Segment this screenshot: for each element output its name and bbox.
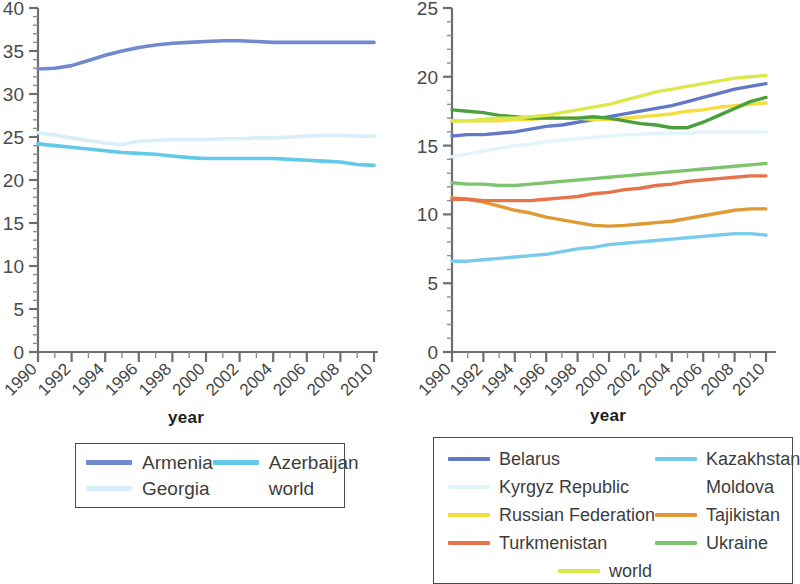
svg-text:15: 15 [417, 136, 438, 157]
svg-text:2002: 2002 [202, 359, 242, 399]
svg-text:1996: 1996 [509, 359, 549, 399]
legend-label-georgia: Georgia [142, 479, 210, 498]
svg-text:1992: 1992 [446, 359, 486, 399]
svg-text:0: 0 [13, 342, 24, 363]
legend-swatch-turkmenistan [448, 541, 490, 545]
svg-text:15: 15 [3, 213, 24, 234]
legend-label-kazakhstan: Kazakhstan [706, 450, 800, 468]
svg-text:1990: 1990 [1, 359, 41, 399]
svg-text:35: 35 [3, 41, 24, 62]
svg-text:2004: 2004 [634, 359, 674, 399]
legend-swatch-armenia [86, 460, 132, 465]
legend-label-moldova: Moldova [706, 478, 774, 496]
svg-text:2000: 2000 [169, 359, 209, 399]
svg-text:2006: 2006 [269, 359, 309, 399]
legend-label-azerbaijan: Azerbaijan [269, 453, 359, 472]
svg-text:1990: 1990 [415, 359, 455, 399]
legend-label-kyrgyz-republic: Kyrgyz Republic [499, 478, 629, 496]
svg-text:2008: 2008 [697, 359, 737, 399]
legend-item-russian-federation[interactable]: Russian Federation [448, 501, 655, 529]
legend-swatch-world [558, 569, 600, 573]
legend-item-ukraine[interactable]: Ukraine [655, 529, 800, 557]
svg-text:2010: 2010 [729, 359, 769, 399]
left-x-axis-title: year [168, 408, 204, 428]
svg-text:20: 20 [417, 67, 438, 88]
svg-text:5: 5 [427, 273, 438, 294]
legend-item-belarus[interactable]: Belarus [448, 445, 655, 473]
legend-swatch-belarus [448, 457, 490, 461]
svg-text:1992: 1992 [34, 359, 74, 399]
left-chart-panel: 0510152025303540199019921994199619982000… [0, 0, 400, 584]
legend-item-kyrgyz-republic[interactable]: Kyrgyz Republic [448, 473, 655, 501]
svg-text:2000: 2000 [572, 359, 612, 399]
legend-label-turkmenistan: Turkmenistan [499, 534, 607, 552]
right-x-axis-title: year [590, 406, 626, 426]
legend-item-tajikistan[interactable]: Tajikistan [655, 501, 800, 529]
legend-item-georgia[interactable]: Georgia [86, 476, 213, 503]
legend-label-armenia: Armenia [142, 453, 213, 472]
legend-label-world: world [269, 479, 314, 498]
left-chart-plot: 0510152025303540199019921994199619982000… [0, 0, 400, 400]
svg-text:1994: 1994 [68, 359, 108, 399]
legend-swatch-ukraine [655, 541, 697, 545]
svg-text:1998: 1998 [540, 359, 580, 399]
legend-item-world[interactable]: world [213, 476, 359, 503]
legend-swatch-kazakhstan [655, 457, 697, 461]
svg-text:40: 40 [3, 0, 24, 19]
legend-swatch-georgia [86, 486, 132, 491]
right-chart-plot: 0510152025199019921994199619982000200220… [400, 0, 780, 400]
legend-swatch-tajikistan [655, 513, 697, 517]
legend-item-world[interactable]: world [448, 557, 800, 584]
legend-label-belarus: Belarus [499, 450, 560, 468]
svg-text:1994: 1994 [477, 359, 517, 399]
legend-label-world: world [609, 562, 652, 580]
svg-text:10: 10 [417, 204, 438, 225]
legend-swatch-russian-federation [448, 513, 490, 517]
legend-item-turkmenistan[interactable]: Turkmenistan [448, 529, 655, 557]
legend-item-moldova[interactable]: Moldova [655, 473, 800, 501]
svg-text:25: 25 [3, 127, 24, 148]
svg-text:2010: 2010 [337, 359, 377, 399]
svg-text:2008: 2008 [303, 359, 343, 399]
legend-label-ukraine: Ukraine [706, 534, 768, 552]
svg-text:25: 25 [417, 0, 438, 19]
svg-text:10: 10 [3, 256, 24, 277]
legend-item-kazakhstan[interactable]: Kazakhstan [655, 445, 800, 473]
right-chart-legend: Belarus Kazakhstan Kyrgyz Republic Moldo… [433, 437, 793, 584]
legend-label-russian-federation: Russian Federation [499, 506, 655, 524]
svg-text:1996: 1996 [101, 359, 141, 399]
svg-text:1998: 1998 [135, 359, 175, 399]
svg-text:2004: 2004 [236, 359, 276, 399]
legend-swatch-moldova [655, 485, 697, 489]
svg-text:2006: 2006 [666, 359, 706, 399]
svg-text:20: 20 [3, 170, 24, 191]
legend-swatch-world [213, 486, 259, 491]
svg-text:0: 0 [427, 342, 438, 363]
legend-swatch-kyrgyz-republic [448, 485, 490, 489]
left-chart-legend: Armenia Azerbaijan Georgia world [75, 443, 345, 508]
legend-swatch-azerbaijan [213, 460, 259, 465]
svg-text:5: 5 [13, 299, 24, 320]
legend-label-tajikistan: Tajikistan [706, 506, 780, 524]
legend-item-armenia[interactable]: Armenia [86, 449, 213, 476]
svg-text:30: 30 [3, 84, 24, 105]
legend-item-azerbaijan[interactable]: Azerbaijan [213, 449, 359, 476]
svg-text:2002: 2002 [603, 359, 643, 399]
